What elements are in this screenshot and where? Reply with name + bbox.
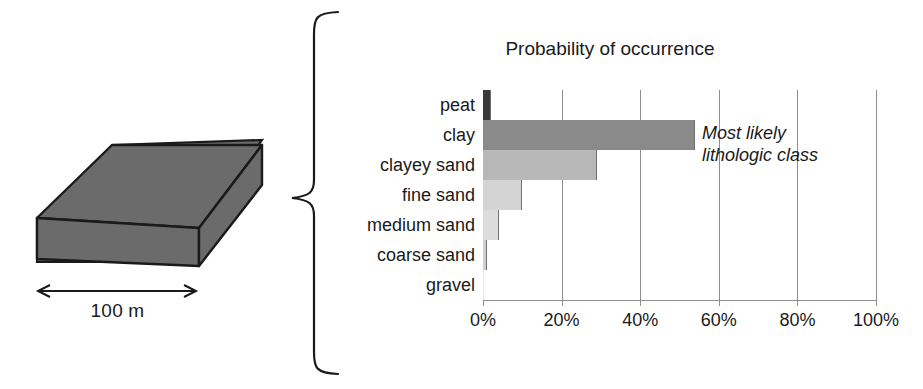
x-tick-label-20pct: 20% xyxy=(544,310,580,331)
x-tick-label-80pct: 80% xyxy=(779,310,815,331)
bar-peat[interactable] xyxy=(483,90,491,120)
category-label-fine-sand: fine sand xyxy=(330,180,475,210)
bar-row[interactable] xyxy=(483,270,876,300)
x-axis-tick-labels: 0%20%40%60%80%100% xyxy=(330,310,923,340)
bar-fine-sand[interactable] xyxy=(483,180,522,210)
figure-canvas: 100 m Probability of occurrence peatclay… xyxy=(0,0,923,389)
x-tick-label-0pct: 0% xyxy=(470,310,496,331)
category-label-clayey-sand: clayey sand xyxy=(330,150,475,180)
x-tick-label-100pct: 100% xyxy=(853,310,899,331)
voxel-block-figure: 100 m xyxy=(0,0,290,389)
category-axis-labels: peatclayclayey sandfine sandmedium sandc… xyxy=(330,90,475,300)
category-label-gravel: gravel xyxy=(330,270,475,300)
chart-title: Probability of occurrence xyxy=(330,38,890,60)
scale-arrow-icon xyxy=(38,285,196,297)
category-label-peat: peat xyxy=(330,90,475,120)
tickmark-100pct xyxy=(876,301,877,306)
tickmark-60pct xyxy=(719,301,720,306)
bar-row[interactable] xyxy=(483,180,876,210)
tickmark-0pct xyxy=(483,301,484,306)
tickmark-20pct xyxy=(562,301,563,306)
probability-bar-chart: Probability of occurrence peatclayclayey… xyxy=(330,0,923,389)
block-scale-label: 100 m xyxy=(0,300,235,322)
x-tick-label-60pct: 60% xyxy=(701,310,737,331)
bar-row[interactable] xyxy=(483,210,876,240)
bar-row[interactable] xyxy=(483,240,876,270)
bar-clay[interactable] xyxy=(483,120,695,150)
tickmark-80pct xyxy=(797,301,798,306)
x-axis-line xyxy=(483,300,877,301)
annotation-line-1: Most likely xyxy=(702,122,818,144)
bar-medium-sand[interactable] xyxy=(483,210,499,240)
gridline-100pct xyxy=(876,90,877,300)
x-tick-label-40pct: 40% xyxy=(622,310,658,331)
voxel-block-icon xyxy=(0,0,290,389)
category-label-coarse-sand: coarse sand xyxy=(330,240,475,270)
tickmark-40pct xyxy=(640,301,641,306)
annotation-line-2: lithologic class xyxy=(702,144,818,166)
most-likely-annotation: Most likely lithologic class xyxy=(702,122,818,166)
bar-gravel[interactable] xyxy=(483,270,484,300)
bar-row[interactable] xyxy=(483,90,876,120)
category-label-medium-sand: medium sand xyxy=(330,210,475,240)
category-label-clay: clay xyxy=(330,120,475,150)
bar-clayey-sand[interactable] xyxy=(483,150,597,180)
bar-coarse-sand[interactable] xyxy=(483,240,487,270)
